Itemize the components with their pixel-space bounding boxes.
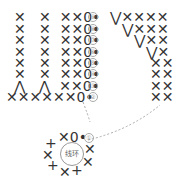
- row-number-2: ②: [88, 92, 98, 102]
- ring-stitch: ✕: [59, 165, 71, 179]
- stitches-left-2: ✕✕✕✕✕✕0•: [6, 90, 94, 104]
- ring-stitch: ✕: [84, 142, 96, 156]
- ring-stitch: ✕: [82, 155, 94, 169]
- stitches-right-2: ✕✕: [150, 90, 173, 104]
- ring-stitch: +: [47, 158, 59, 172]
- ring-stitch: +: [71, 163, 83, 177]
